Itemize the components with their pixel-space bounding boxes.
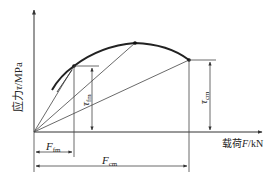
F-fm-label: Ffm — [45, 140, 61, 154]
stress-load-diagram: 应力τ/MPa 载荷F/kN τfm τcm Ffm Fcm — [0, 0, 276, 185]
y-axis-label: 应力τ/MPa — [11, 62, 24, 112]
x-axis-label: 载荷F/kN — [222, 138, 263, 149]
tau-cm-label: τcm — [197, 91, 211, 104]
diagram-canvas: 应力τ/MPa 载荷F/kN τfm τcm Ffm Fcm — [0, 0, 276, 185]
secant-peak — [34, 43, 135, 132]
secant-cm — [34, 60, 189, 132]
tau-fm-label: τfm — [79, 94, 93, 106]
point-peak — [133, 41, 137, 45]
secant-fm — [34, 66, 74, 132]
F-cm-label: Fcm — [101, 154, 118, 168]
